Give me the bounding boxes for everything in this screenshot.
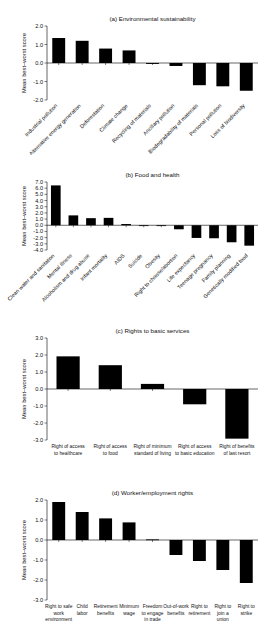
x-category-label: Suicide — [127, 252, 144, 269]
y-tick-label: -1.0 — [33, 79, 43, 85]
y-tick-label: 0.0 — [35, 386, 43, 392]
bar — [52, 38, 65, 63]
bar — [104, 218, 114, 225]
x-category-label: Right of benefitsof last resort — [219, 444, 255, 456]
bar — [240, 540, 253, 583]
y-tick-label: -2.0 — [33, 97, 43, 103]
chart-b: (b) Food and health7.06.05.04.03.02.01.0… — [0, 155, 267, 310]
bar — [169, 540, 182, 555]
bar — [123, 50, 136, 63]
y-tick-label: 3.0 — [35, 335, 43, 341]
y-tick-label: -3.0 — [33, 241, 43, 247]
bar — [141, 384, 164, 389]
x-category-label: Recycling of materials — [111, 102, 153, 144]
panel-title: (a) Environmental sustainability — [110, 15, 197, 22]
bar — [216, 540, 229, 570]
y-tick-label: 1.0 — [35, 42, 43, 48]
panel-title: (c) Rights to basic services — [116, 327, 190, 334]
y-tick-label: 3.0 — [35, 204, 43, 210]
x-category-label: Right of accessto healthcare — [51, 444, 85, 456]
x-category-label: Retirementbenefits — [94, 604, 119, 616]
x-category-label: Out-of-workbenefits — [163, 604, 189, 616]
bar — [76, 41, 89, 63]
x-category-label: AIDS — [113, 252, 126, 265]
bar — [99, 49, 112, 63]
bar — [240, 63, 253, 91]
y-tick-label: 0.0 — [35, 60, 43, 66]
x-category-label: Right of accessto basic education — [175, 444, 215, 456]
y-tick-label: 0.0 — [35, 537, 43, 543]
x-category-label: Childlabor — [77, 604, 88, 616]
y-axis-label: Mean best–worst score — [21, 520, 27, 580]
bar — [69, 215, 79, 225]
bar — [216, 63, 229, 86]
y-tick-label: -1.0 — [33, 403, 43, 409]
x-category-label: Right tojoin aunion — [214, 604, 231, 622]
bar — [99, 518, 112, 540]
y-tick-label: 1.0 — [35, 369, 43, 375]
bar — [244, 225, 254, 245]
bar — [86, 218, 96, 225]
y-tick-label: 2.0 — [35, 352, 43, 358]
y-tick-label: -4.0 — [33, 247, 43, 253]
chart-d: (d) Worker/employment rights2.01.00.0-1.… — [0, 482, 267, 643]
bar — [99, 365, 122, 389]
y-tick-label: 2.0 — [35, 210, 43, 216]
x-category-label: Right tostrike — [238, 604, 255, 616]
figure-panels: (a) Environmental sustainability2.01.00.… — [0, 0, 267, 643]
chart-a: (a) Environmental sustainability2.01.00.… — [0, 0, 267, 155]
panel-d: (d) Worker/employment rights2.01.00.0-1.… — [0, 482, 267, 643]
x-category-label: Right of minimumstandard of living — [133, 444, 171, 456]
panel-a: (a) Environmental sustainability2.01.00.… — [0, 0, 267, 155]
bar — [52, 502, 65, 540]
y-tick-label: -2.0 — [33, 577, 43, 583]
bar — [121, 224, 131, 225]
bar — [225, 389, 248, 439]
bar — [193, 540, 206, 561]
y-tick-label: 6.0 — [35, 185, 43, 191]
y-tick-label: 5.0 — [35, 191, 43, 197]
y-tick-label: 2.0 — [35, 23, 43, 29]
y-axis-label: Mean best–worst score — [21, 186, 27, 246]
bar — [123, 522, 136, 540]
y-tick-label: -1.0 — [33, 228, 43, 234]
y-tick-label: -3.0 — [33, 437, 43, 443]
bar — [51, 185, 61, 225]
y-tick-label: -3.0 — [33, 597, 43, 603]
bar — [56, 356, 79, 389]
bar — [183, 389, 206, 404]
panel-b: (b) Food and health7.06.05.04.03.02.01.0… — [0, 155, 267, 310]
y-axis-label: Mean best–worst score — [21, 33, 27, 93]
x-category-label: Freedomto engagein trade — [142, 604, 164, 622]
panel-c: (c) Rights to basic services3.02.01.00.0… — [0, 310, 267, 482]
y-axis-label: Mean best–worst score — [21, 359, 27, 419]
y-tick-label: 7.0 — [35, 179, 43, 185]
y-tick-label: -2.0 — [33, 420, 43, 426]
x-category-label: Right toretirement — [188, 604, 211, 616]
panel-title: (b) Food and health — [125, 171, 180, 178]
x-category-label: Right to safeworkenvironment — [45, 604, 73, 622]
chart-c: (c) Rights to basic services3.02.01.00.0… — [0, 310, 267, 482]
y-tick-label: 2.0 — [35, 497, 43, 503]
y-tick-label: 1.0 — [35, 517, 43, 523]
bar — [76, 512, 89, 540]
y-tick-label: -1.0 — [33, 557, 43, 563]
y-tick-label: 1.0 — [35, 216, 43, 222]
y-tick-label: 4.0 — [35, 198, 43, 204]
bar — [227, 225, 237, 242]
y-tick-label: 0.0 — [35, 222, 43, 228]
x-category-label: Minimumwage — [119, 604, 139, 616]
x-category-label: Right of accessto food — [94, 444, 128, 456]
bar — [193, 63, 206, 85]
y-tick-label: -2.0 — [33, 235, 43, 241]
panel-title: (d) Worker/employment rights — [112, 489, 193, 496]
